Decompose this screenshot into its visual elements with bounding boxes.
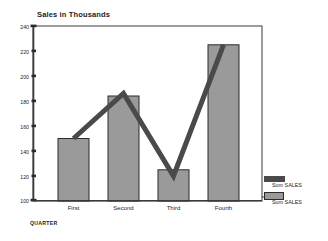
y-tick-label: 160 — [20, 124, 29, 130]
legend-item-bar-series[interactable]: Sum SALES — [264, 189, 328, 206]
x-tick-label: Third — [167, 205, 181, 211]
legend-label: Sum SALES — [272, 182, 302, 188]
y-axis-tick-labels: 240 220 200 180 160 140 120 100 — [20, 24, 29, 204]
x-tick-label: Fourth — [215, 205, 232, 211]
legend-label: Sum SALES — [272, 199, 302, 205]
y-tick-label: 200 — [20, 74, 29, 80]
chart-legend: Sum SALES Sum SALES — [264, 172, 328, 206]
x-tick-label: First — [68, 205, 80, 211]
chart-screenshot: Sales in Thousands 240 220 200 180 160 1… — [0, 0, 328, 241]
x-axis-title: QUARTER — [30, 220, 57, 226]
y-tick-label: 140 — [20, 149, 29, 155]
y-tick-label: 180 — [20, 99, 29, 105]
y-tick-label: 220 — [20, 49, 29, 55]
x-axis-tick-labels: First Second Third Fourth — [68, 205, 233, 211]
bar-first[interactable] — [58, 139, 89, 202]
y-tick-label: 120 — [20, 174, 29, 180]
y-tick-label: 240 — [20, 24, 29, 30]
y-tick-label: 100 — [20, 198, 29, 204]
legend-item-line-series[interactable]: Sum SALES — [264, 172, 328, 189]
x-tick-label: Second — [113, 205, 133, 211]
